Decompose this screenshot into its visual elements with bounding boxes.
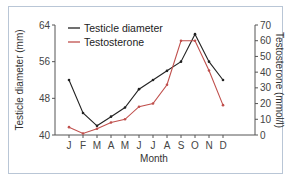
data-point [194,33,197,36]
data-point [124,106,127,109]
data-point [166,70,169,73]
y2-tick-label: 20 [260,98,272,109]
y-tick-label: 56 [39,56,51,67]
x-axis-label: Month [140,153,168,164]
data-point [152,102,155,105]
y2-tick-label: 60 [260,35,272,46]
y-tick-label: 48 [39,93,51,104]
x-tick-label: J [137,140,142,151]
data-point [208,60,211,63]
data-point [82,112,85,115]
data-point [180,60,183,63]
x-tick-label: M [93,140,101,151]
y2-axis-label: Testosterone (mmol/l) [274,32,285,128]
data-point [152,79,155,82]
x-tick-label: O [191,140,199,151]
y2-tick-label: 50 [260,51,272,62]
data-point [194,39,197,42]
data-point [208,69,211,72]
data-point [110,121,113,124]
legend-label-diameter: Testicle diameter [84,22,163,34]
legend: Testicle diameter Testosterone [68,22,163,48]
data-point [166,83,169,86]
data-point [68,126,71,129]
x-tick-label: A [164,140,171,151]
x-tick-label: A [108,140,115,151]
y2-tick-label: 30 [260,82,272,93]
y-tick-label: 64 [39,20,51,31]
data-point [110,115,113,118]
data-point [96,127,99,130]
data-lines [68,33,225,135]
data-point [138,105,141,108]
data-point [222,79,225,82]
y2-tick-label: 0 [260,130,266,141]
data-point [82,132,85,135]
y-tick-label: 40 [39,130,51,141]
y2-tick-label: 70 [260,20,272,31]
x-tick-label: S [178,140,185,151]
line-chart: 40485664010203040506070JFMAMJJASOND Test… [0,0,292,186]
axes: 40485664010203040506070JFMAMJJASOND [39,20,272,152]
series-line [69,41,223,134]
x-tick-label: F [80,140,86,151]
legend-label-testosterone: Testosterone [84,36,144,48]
data-point [68,79,71,82]
x-tick-label: N [205,140,212,151]
y-axis-label: Testicle diameter (mm) [14,29,25,130]
x-tick-label: J [67,140,72,151]
data-point [96,125,99,128]
x-tick-label: J [151,140,156,151]
data-point [180,39,183,42]
data-point [138,88,141,91]
data-point [222,104,225,107]
x-tick-label: M [121,140,129,151]
y2-tick-label: 10 [260,114,272,125]
y2-tick-label: 40 [260,67,272,78]
x-tick-label: D [219,140,226,151]
data-point [124,118,127,121]
